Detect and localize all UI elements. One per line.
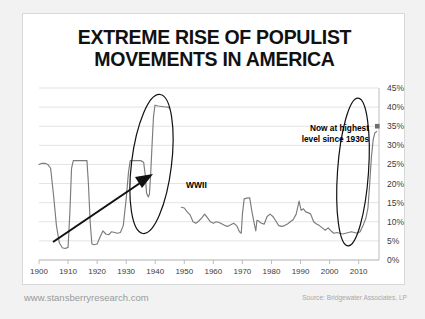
x-axis-label-2010: 2010 [346,267,372,276]
y-axis-label-10%: 10% [387,217,404,227]
y-axis-label-30%: 30% [387,140,404,150]
y-axis-label-15%: 15% [387,198,404,208]
chart-plot-area: Now at highest level since 1930s WWII 0%… [23,14,406,286]
axis-lines-group [39,88,379,260]
x-axis-label-1900: 1900 [26,267,52,276]
footer-website[interactable]: www.stansberryresearch.com [24,292,149,303]
y-axis-label-40%: 40% [387,102,404,112]
y-axis-label-25%: 25% [387,159,404,169]
ellipse-present-peak [332,97,373,247]
x-axis-label-1940: 1940 [142,267,168,276]
x-axis-label-1910: 1910 [55,267,81,276]
x-axis-label-1960: 1960 [200,267,226,276]
footer-source: Source: Bridgewater Associates, LP [302,294,407,301]
populist-movements-line-chart [23,14,406,286]
annotation-now-line-2: level since 1930s [302,134,369,144]
y-axis-label-45%: 45% [387,83,404,93]
y-axis-label-35%: 35% [387,121,404,131]
x-axis-label-1980: 1980 [258,267,284,276]
annotation-now-highest: Now at highest level since 1930s [261,123,369,144]
annotation-now-line-1: Now at highest [310,123,369,133]
y-axis-label-0%: 0% [387,255,399,265]
y-axis-label-20%: 20% [387,179,404,189]
x-axis-label-1930: 1930 [113,267,139,276]
data-marker-group [375,124,380,129]
data-line-1949-2017 [181,132,376,234]
x-axis-label-1970: 1970 [229,267,255,276]
x-axis-label-2000: 2000 [317,267,343,276]
wwii-arrow-shaft [53,179,146,242]
gridlines-group [39,88,379,260]
annotation-wwii-label: WWII [186,180,207,190]
x-tick-marks-group [39,260,359,264]
x-axis-label-1920: 1920 [84,267,110,276]
x-axis-label-1950: 1950 [171,267,197,276]
data-marker-latest [375,124,380,129]
y-axis-label-5%: 5% [387,236,399,246]
x-axis-label-1990: 1990 [288,267,314,276]
chart-card: EXTREME RISE OF POPULIST MOVEMENTS IN AM… [22,13,405,285]
